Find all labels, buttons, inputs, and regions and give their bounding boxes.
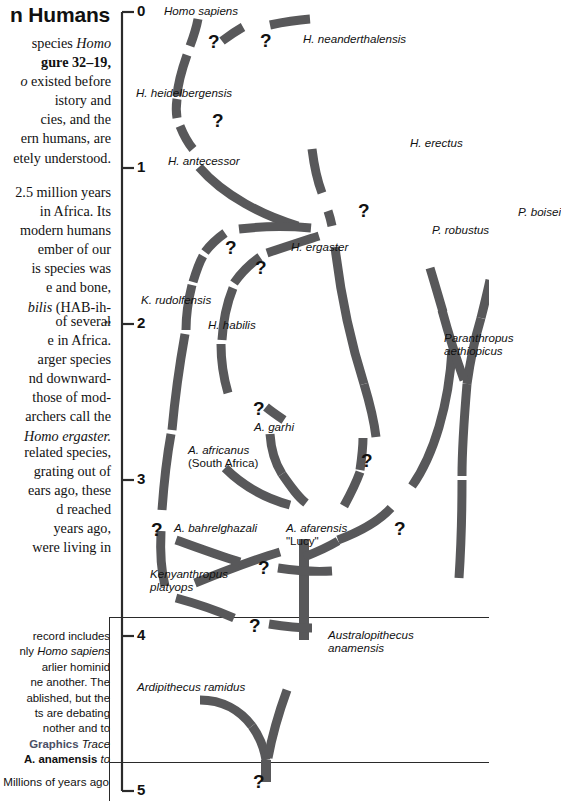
branch-rudolfensis-base (162, 434, 171, 510)
branch-boisei-tip (481, 280, 489, 318)
branch-right-outer-upper (412, 350, 452, 486)
uncertainty-marker-q-ergaster-erectus: ? (358, 200, 370, 222)
branch-robustus-terminal (430, 268, 443, 312)
branch-habilis-lower (221, 344, 228, 393)
uncertainty-marker-q-ergaster-habilis: ? (255, 257, 267, 279)
axis-tick-label-0: 0 (137, 2, 145, 19)
branch-rudolfensis-to-node (239, 227, 311, 229)
axis-tick-label-1: 1 (137, 158, 145, 175)
branch-antecessor-stub (180, 126, 193, 149)
hominid-evolutionary-tree-figure: 0 1 2 3 4 5 Homo sapiensH. neanderthalen… (112, 0, 489, 801)
uncertainty-marker-q-sapiens-heidelbergensis: ? (208, 31, 220, 53)
taxon-label-a-bahrelghazali: A. bahrelghazali (174, 521, 257, 534)
tree-branches (161, 10, 489, 782)
body-paragraph-4: related species,grating out ofears ago, … (24, 443, 111, 558)
branch-neanderthal-stub (222, 27, 243, 41)
branch-kenyanthropus-q1-right (278, 568, 332, 571)
taxon-label-kenyanthropus-platyops: Kenyanthropus platyops (150, 567, 228, 594)
branch-rudolfensis-deep (172, 334, 185, 430)
branch-garhi-terminal (270, 434, 282, 474)
branch-rudolfensis-upper (205, 233, 225, 252)
branch-kenyanthropus-to-q2 (176, 598, 234, 618)
taxon-label-a-afarensis: A. afarensis"Lucy" (286, 521, 347, 548)
uncertainty-marker-q-rudolfensis-base: ? (151, 519, 163, 541)
taxon-label-australopithecus-anamensis: Australopithecus anamensis (328, 628, 414, 655)
axis-caption-label: Millions of years ago (3, 775, 109, 788)
branch-ardipithecus-join (252, 726, 266, 760)
branch-ergaster-descend (335, 247, 364, 384)
axis-tick-label-3: 3 (137, 470, 145, 487)
branch-aethiopicus-trunk (462, 384, 467, 476)
branch-antecessor-to-ergaster (199, 167, 298, 226)
uncertainty-marker-q-kenyanthropus-anamensis: ? (249, 615, 261, 637)
axis-tick-label-5: 5 (137, 781, 145, 798)
taxon-label-h-habilis: H. habilis (208, 318, 256, 331)
taxon-label-homo-sapiens: Homo sapiens (164, 4, 238, 17)
branch-kenyanthropus-q2-right (269, 624, 312, 628)
branch-neanderthal-terminal (270, 19, 310, 25)
body-paragraph-3: of severale in Africa.arger speciesnd do… (24, 312, 111, 446)
branch-habilis-mid (222, 288, 233, 340)
branch-heidelbergensis-lower (176, 99, 177, 118)
branch-root-right (268, 690, 287, 758)
branch-ergaster-below-q2 (344, 472, 360, 506)
taxon-label-h-neanderthalensis: H. neanderthalensis (303, 32, 406, 45)
article-text-column: n Humans species Homogure 32–19,o existe… (0, 0, 112, 801)
taxon-label-a-africanus: A. africanus(South Africa) (188, 443, 258, 470)
page-title: n Humans (10, 3, 110, 27)
uncertainty-marker-q-afarensis-ergaster: ? (361, 450, 373, 472)
taxon-label-h-heidelbergensis: H. heidelbergensis (136, 86, 232, 99)
branch-garhi-stub (266, 407, 284, 420)
figure-frame-left-rule (109, 617, 110, 801)
axis-tick-label-4: 4 (137, 626, 145, 643)
taxon-label-paranthropus-aethiopicus: Paranthropus aethiopicus (444, 331, 514, 358)
branch-rudolfensis-mid (193, 256, 203, 282)
taxon-label-h-ergaster: H. ergaster (291, 240, 348, 253)
axis-tick-label-2: 2 (137, 314, 145, 331)
taxon-label-p-robustus: P. robustus (432, 223, 489, 236)
uncertainty-marker-q-kenyanthropus-top: ? (258, 557, 270, 579)
uncertainty-marker-q-habilis-garhi: ? (253, 398, 265, 420)
body-paragraph-1: species Homogure 32–19,o existed beforei… (13, 34, 111, 168)
branch-ardipithecus (200, 700, 252, 726)
taxon-label-a-garhi: A. garhi (254, 420, 294, 433)
taxon-label-ardipithecus-ramidus: Ardipithecus ramidus (137, 680, 245, 693)
taxon-label-k-rudolfensis: K. rudolfensis (141, 293, 211, 306)
figure-caption: record includesnly Homo sapiensarlier ho… (19, 629, 110, 768)
taxon-label-h-antecessor: H. antecessor (168, 154, 240, 167)
uncertainty-marker-q-afarensis-right: ? (394, 518, 406, 540)
time-axis (122, 12, 134, 791)
branch-aethiopicus-deep (459, 480, 462, 578)
branch-garhi-join (282, 474, 306, 503)
uncertainty-marker-q-root: ? (253, 771, 265, 793)
taxon-label-p-boisei: P. boisei (518, 205, 561, 218)
uncertainty-marker-q-heidelbergensis-antecessor: ? (212, 110, 224, 132)
uncertainty-marker-q-ergaster-rudolfensis: ? (225, 237, 237, 259)
branch-ergaster-node-stub (328, 211, 332, 226)
uncertainty-marker-q-neanderthal: ? (260, 30, 272, 52)
taxon-label-h-erectus: H. erectus (410, 136, 463, 149)
branch-rudolfensis-lower (186, 285, 192, 330)
branch-homo-sapiens (190, 19, 198, 46)
branch-erectus (312, 149, 322, 193)
